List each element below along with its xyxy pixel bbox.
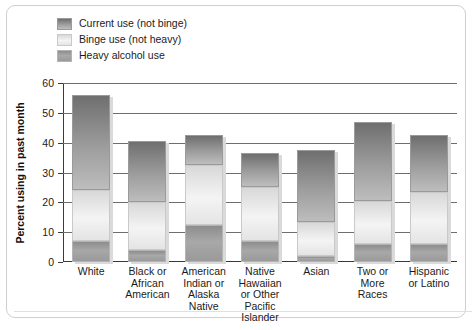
bar-segment-binge-use[interactable] — [354, 201, 392, 244]
bar-segment-current-use[interactable] — [185, 135, 223, 165]
y-tick-label: 60 — [14, 77, 54, 89]
gridline — [63, 83, 457, 84]
legend-item-binge-use: Binge use (not heavy) — [57, 32, 317, 47]
x-axis-label: NativeHawaiianor OtherPacificIslander — [233, 266, 287, 324]
y-tick-mark — [58, 113, 63, 114]
x-axis-label-line: Black or — [120, 266, 174, 278]
legend-label-heavy-alcohol-use: Heavy alcohol use — [79, 50, 165, 61]
bar-stack[interactable] — [241, 153, 279, 262]
bar-segment-current-use[interactable] — [241, 153, 279, 187]
bar-segment-heavy-alcohol-use[interactable] — [72, 241, 110, 262]
chart-legend: Current use (not binge) Binge use (not h… — [57, 16, 317, 64]
gridline — [63, 143, 457, 144]
bar-segment-current-use[interactable] — [354, 122, 392, 201]
x-axis-label-line: Hispanic — [402, 266, 456, 278]
bar-segment-current-use[interactable] — [72, 95, 110, 190]
x-axis-label: Asian — [289, 266, 343, 278]
y-tick-label: 20 — [14, 196, 54, 208]
x-axis-label: Hispanicor Latino — [402, 266, 456, 289]
bar-segment-heavy-alcohol-use[interactable] — [297, 256, 335, 262]
y-tick-mark — [58, 173, 63, 174]
y-tick-mark — [58, 262, 63, 263]
bar-segment-binge-use[interactable] — [241, 187, 279, 241]
x-axis-label: Two orMoreRaces — [346, 266, 400, 301]
bar-segment-heavy-alcohol-use[interactable] — [241, 241, 279, 262]
legend-item-heavy-alcohol-use: Heavy alcohol use — [57, 48, 317, 63]
bar-segment-binge-use[interactable] — [128, 202, 166, 250]
x-axis-label-line: White — [64, 266, 118, 278]
bar-stack[interactable] — [72, 95, 110, 262]
bar-segment-current-use[interactable] — [410, 135, 448, 192]
bar-segment-binge-use[interactable] — [72, 190, 110, 241]
gridline — [63, 113, 457, 114]
x-axis-labels: WhiteBlack orAfricanAmericanAmericanIndi… — [63, 266, 457, 328]
legend-swatch-heavy-alcohol-use — [57, 50, 72, 62]
bar-segment-current-use[interactable] — [297, 150, 335, 222]
bar-segment-heavy-alcohol-use[interactable] — [128, 250, 166, 262]
bar-stack[interactable] — [128, 141, 166, 262]
bar-segment-binge-use[interactable] — [185, 165, 223, 225]
bar-segment-binge-use[interactable] — [410, 192, 448, 244]
footer-divider — [14, 311, 472, 312]
bar-segment-binge-use[interactable] — [297, 222, 335, 256]
x-axis-label-line: or Other — [233, 289, 287, 301]
bar-stack[interactable] — [410, 135, 448, 262]
chart-card: Current use (not binge) Binge use (not h… — [6, 5, 466, 318]
x-axis-label: Black orAfricanAmerican — [120, 266, 174, 301]
y-tick-label: 0 — [14, 256, 54, 268]
x-axis-label-line: Islander — [233, 312, 287, 324]
y-tick-label: 30 — [14, 167, 54, 179]
legend-item-current-use: Current use (not binge) — [57, 16, 317, 31]
plot-area: 0102030405060 — [63, 83, 457, 262]
y-tick-mark — [58, 143, 63, 144]
bar-segment-heavy-alcohol-use[interactable] — [410, 244, 448, 262]
legend-swatch-current-use — [57, 18, 72, 30]
x-axis-label: White — [64, 266, 118, 278]
legend-swatch-binge-use — [57, 34, 72, 46]
x-axis-label-line: American — [120, 289, 174, 301]
bar-stack[interactable] — [354, 122, 392, 262]
y-tick-mark — [58, 202, 63, 203]
x-axis-label-line: Asian — [289, 266, 343, 278]
y-tick-label: 40 — [14, 137, 54, 149]
bar-segment-heavy-alcohol-use[interactable] — [354, 244, 392, 262]
x-axis-label: AmericanIndian orAlaskaNative — [177, 266, 231, 312]
y-tick-label: 10 — [14, 226, 54, 238]
y-tick-mark — [58, 83, 63, 84]
x-axis-label-line: Two or — [346, 266, 400, 278]
legend-label-binge-use: Binge use (not heavy) — [79, 34, 181, 45]
y-tick-label: 50 — [14, 107, 54, 119]
bar-stack[interactable] — [185, 135, 223, 262]
x-axis-label-line: Native — [233, 266, 287, 278]
x-axis-label-line: American — [177, 266, 231, 278]
bar-segment-current-use[interactable] — [128, 141, 166, 202]
x-axis-label-line: Alaska — [177, 289, 231, 301]
bar-stack[interactable] — [297, 150, 335, 262]
x-axis-label-line: or Latino — [402, 278, 456, 290]
x-axis-label-line: Races — [346, 289, 400, 301]
bar-segment-heavy-alcohol-use[interactable] — [185, 225, 223, 262]
y-tick-mark — [58, 232, 63, 233]
legend-label-current-use: Current use (not binge) — [79, 18, 187, 29]
